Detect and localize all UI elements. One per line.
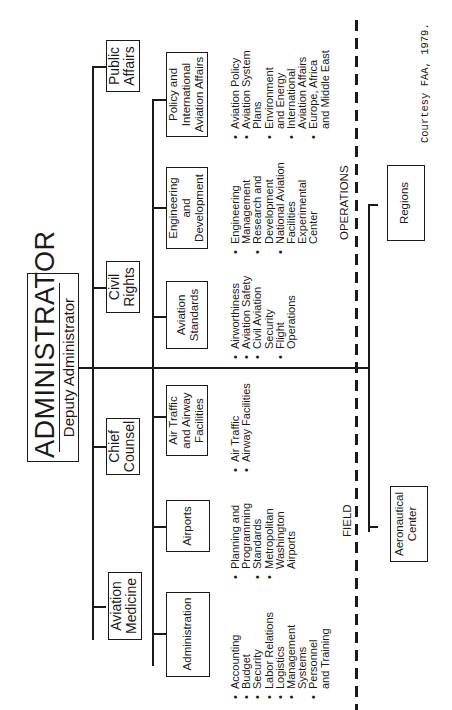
aviation-standards-list: •Airworthiness •Aviation Safety •Civil A… [230, 260, 297, 360]
item-text: Systems [296, 647, 308, 689]
engineering-list: •Engineering Management •Research and De… [230, 145, 320, 255]
item-text: Development [263, 179, 275, 244]
item-text: Personnel [307, 639, 319, 689]
atf-connector [152, 416, 167, 418]
label-line: Public [107, 41, 122, 91]
aeronautical-center-label: Aeronautical Center [393, 487, 419, 561]
item-text: Management [240, 180, 252, 244]
item-text: Environment [263, 67, 275, 129]
item-text: Flight [274, 322, 286, 349]
item-text: Aviation Affairs [296, 57, 308, 129]
item-text: Aviation System [240, 50, 252, 129]
list-item-cont: Center [308, 145, 319, 255]
item-text: Aviation Policy [229, 58, 241, 129]
item-text: Labor Relations [263, 612, 275, 689]
item-text: Airworthiness [229, 283, 241, 349]
label-line: Aviation Affairs [193, 53, 206, 136]
regions-connector [368, 204, 378, 206]
label-line: Facilities [193, 386, 206, 455]
item-text: Airway Facilities [240, 383, 252, 462]
bullet-icon: • [252, 250, 263, 254]
public-affairs-label: Public Affairs [107, 41, 137, 91]
pol-connector [152, 99, 167, 101]
admin-connector [79, 367, 369, 369]
std-connector [152, 316, 167, 318]
line-office-trunk [152, 99, 154, 666]
item-text: Programming [240, 503, 252, 569]
aeronautical-connector [368, 526, 378, 528]
label-line: Airports [181, 501, 194, 551]
regions-label: Regions [398, 166, 411, 240]
label-line: Policy and [167, 53, 180, 136]
courtesy-credit: Courtesy FAA, 1979. [419, 23, 431, 143]
item-text: and Energy [274, 73, 286, 129]
item-text: and Training [319, 628, 331, 689]
bullet-icon: • [252, 575, 263, 579]
civil-rights-label: Civil Rights [107, 262, 137, 312]
item-text: Accounting [229, 635, 241, 689]
administration-connector [152, 633, 167, 635]
chief-counsel-label: Chief Counsel [107, 419, 137, 474]
item-text: Research and [251, 176, 263, 245]
air-traffic-list: •Air Traffic •Airway Facilities [230, 363, 252, 473]
list-item-cont: and Training [320, 580, 331, 700]
item-text: Standards [251, 519, 263, 569]
cr-connector [92, 287, 106, 289]
list-item-cont: Operations [286, 260, 297, 360]
label-line: Affairs [122, 41, 137, 91]
label-line: International [180, 53, 193, 136]
item-text: Engineering [229, 185, 241, 244]
cc-connector [92, 446, 106, 448]
operations-label: OPERATIONS [338, 165, 351, 240]
bullet-icon: • [230, 575, 241, 579]
item-text: Facilities [285, 201, 297, 244]
bullet-icon: • [230, 250, 241, 254]
item-text: and Middle East [319, 50, 331, 129]
administrator-label: ADMINISTRATOR [31, 277, 59, 458]
item-text: National Aviation [274, 162, 286, 244]
bullet-icon: • [275, 250, 286, 254]
item-text: International [285, 68, 297, 129]
label-line: Aviation [109, 573, 124, 639]
label-line: Center [406, 487, 419, 561]
bullet-icon: • [286, 695, 297, 699]
list-item: •Airway Facilities [241, 363, 252, 473]
label-line: Aviation [175, 282, 188, 348]
am-connector [92, 606, 106, 608]
bullet-icon: • [241, 135, 252, 139]
administrator-title: ADMINISTRATOR Deputy Administrator [31, 277, 77, 458]
item-text: Security [251, 649, 263, 689]
label-line: Counsel [122, 419, 137, 474]
pa-connector [92, 66, 106, 68]
bullet-icon: • [308, 695, 319, 699]
bullet-icon: • [264, 135, 275, 139]
label-line: Engineering [167, 168, 180, 248]
item-text: Washington [274, 511, 286, 569]
list-item-cont: Airports [286, 470, 297, 580]
bullet-icon: • [308, 135, 319, 139]
deputy-administrator-label: Deputy Administrator [60, 277, 77, 458]
item-text: Operations [285, 295, 297, 349]
operations-field-divider [355, 20, 358, 710]
bullet-icon: • [252, 355, 263, 359]
administration-label: Administration [181, 593, 194, 675]
administration-list: •Accounting •Budget •Security •Labor Rel… [230, 580, 331, 700]
aviation-standards-label: Aviation Standards [175, 282, 201, 348]
label-line: and Airway [180, 386, 193, 455]
item-text: Experimental [296, 180, 308, 244]
item-text: Budget [240, 654, 252, 689]
staff-trunk [92, 66, 94, 640]
policy-intl-list: •Aviation Policy •Aviation System Plans … [230, 10, 331, 140]
item-text: Airports [285, 531, 297, 569]
label-line: Rights [122, 262, 137, 312]
list-item-cont: and Middle East [320, 10, 331, 140]
bullet-icon: • [275, 355, 286, 359]
aviation-medicine-label: Aviation Medicine [109, 573, 139, 639]
bullet-icon: • [286, 135, 297, 139]
item-text: Civil Aviation [251, 287, 263, 349]
airports-list: •Planning and Programming •Standards •Me… [230, 470, 297, 580]
label-line: Civil [107, 262, 122, 312]
air-traffic-label: Air Traffic and Airway Facilities [167, 386, 206, 455]
label-line: Standards [188, 282, 201, 348]
label-line: Aeronautical [393, 487, 406, 561]
